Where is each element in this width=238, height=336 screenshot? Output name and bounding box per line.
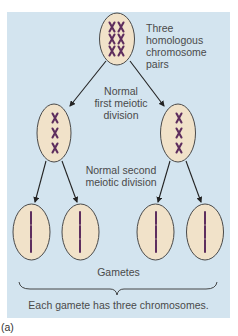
arrow-icon — [62, 161, 77, 202]
gamete-cell-3 — [137, 204, 174, 260]
meiosis-one-left-cell — [37, 104, 71, 162]
arrow-icon — [186, 161, 201, 202]
brace-icon — [19, 282, 217, 295]
first-division-label: Normal first meiotic division — [89, 85, 153, 121]
parent-cell — [100, 13, 135, 65]
gamete-cell-4 — [187, 204, 224, 260]
gametes-label: Gametes — [7, 266, 230, 278]
meiosis-one-right-cell — [161, 104, 196, 162]
arrow-icon — [35, 161, 46, 202]
gamete-cell-1 — [13, 204, 50, 260]
summary-caption: Each gamete has three chromosomes. — [7, 299, 230, 311]
gamete-cell-2 — [62, 204, 99, 260]
second-division-label: Normal second meiotic division — [79, 164, 163, 188]
figure-label: (a) — [1, 321, 14, 333]
parent-cell-label: Three homologous chromosome pairs — [146, 22, 207, 70]
